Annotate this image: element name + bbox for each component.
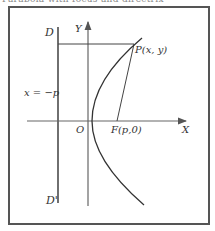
label-origin: O (76, 124, 84, 135)
label-x-axis: X (181, 124, 190, 135)
label-d: D (44, 26, 54, 39)
focal-segment (117, 44, 134, 121)
parabola-diagram: D D' x = −p Y X O F(p,0) P(x, y) (0, 0, 215, 231)
label-point-p: P(x, y) (134, 44, 167, 55)
label-focus: F(p,0) (110, 124, 142, 135)
label-directrix-eq: x = −p (24, 87, 60, 98)
label-d-prime: D' (45, 194, 58, 207)
label-y-axis: Y (75, 23, 83, 34)
